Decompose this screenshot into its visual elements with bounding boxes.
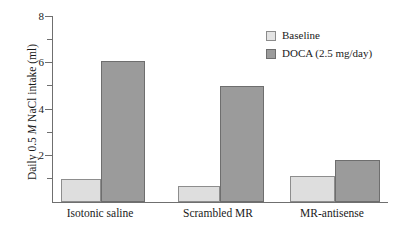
bar-isotonic-saline-baseline <box>61 179 101 202</box>
legend-label-baseline: Baseline <box>282 30 320 41</box>
y-axis-title-molar: M <box>26 125 38 135</box>
legend-item-doca: DOCA (2.5 mg/day) <box>266 46 372 61</box>
x-axis-line <box>52 202 388 203</box>
x-label-mr-antisense: MR-antisense <box>284 206 380 220</box>
chart-legend: Baseline DOCA (2.5 mg/day) <box>266 28 372 64</box>
y-tick-label-2: 2 <box>14 150 44 161</box>
legend-swatch-baseline-icon <box>266 31 276 41</box>
x-label-isotonic-saline: Isotonic saline <box>52 206 148 220</box>
legend-item-baseline: Baseline <box>266 28 372 43</box>
chart-figure: Daily 0.5 M NaCl intake (ml) 8 6 4 2 Iso… <box>0 0 396 251</box>
legend-swatch-doca-icon <box>266 49 276 59</box>
bar-scrambled-mr-doca <box>220 86 264 202</box>
bar-scrambled-mr-baseline <box>178 186 220 202</box>
legend-label-doca: DOCA (2.5 mg/day) <box>282 48 372 59</box>
bar-mr-antisense-doca <box>335 160 380 202</box>
y-tick-label-6: 6 <box>14 57 44 68</box>
y-tick-label-8: 8 <box>14 11 44 22</box>
bar-isotonic-saline-doca <box>101 61 145 202</box>
y-tick-label-4: 4 <box>14 104 44 115</box>
x-label-scrambled-mr: Scrambled MR <box>170 206 266 220</box>
bar-mr-antisense-baseline <box>290 176 335 202</box>
